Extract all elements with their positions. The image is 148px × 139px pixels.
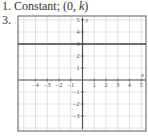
x-tick-label: 1 <box>93 82 96 88</box>
y-tick-label: −1 <box>73 89 79 95</box>
x-tick-label: −2 <box>56 82 62 88</box>
y-tick-label: −2 <box>73 101 79 107</box>
x-tick-label: 5 <box>140 82 143 88</box>
x-tick-label: −4 <box>32 82 38 88</box>
x-tick-label: −3 <box>44 82 50 88</box>
y-tick-label: 4 <box>77 29 80 35</box>
y-tick-label: 1 <box>77 65 80 71</box>
y-tick-label: 2 <box>77 53 80 59</box>
x-tick-label: 4 <box>128 82 131 88</box>
x-tick-label: 2 <box>105 82 108 88</box>
x-tick-label: −1 <box>68 82 74 88</box>
x-axis-label: x <box>140 72 144 78</box>
coordinate-plane-chart: −4−3−2−11234554321−1−2−3xy <box>0 0 148 139</box>
y-tick-label: 5 <box>77 17 80 23</box>
x-tick-label: 3 <box>116 82 119 88</box>
y-axis-label: y <box>85 17 89 23</box>
y-tick-label: −3 <box>73 113 79 119</box>
